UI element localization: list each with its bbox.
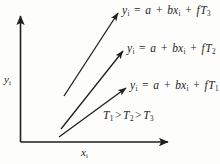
inequality-t1-subscript: 1 (110, 115, 114, 123)
equation-top-predictor: x (173, 4, 178, 16)
equation-top-dependent: y (122, 4, 127, 16)
equation-top-predictor-subscript: i (179, 10, 181, 18)
equation-bottom-plus-second: + (192, 79, 202, 91)
equation-bottom-intercept: a (153, 79, 159, 91)
equation-top-term: T (200, 4, 207, 16)
equation-bottom-term-subscript: 1 (215, 85, 219, 93)
equation-middle-plus-second: + (189, 42, 199, 54)
inequality-t2-subscript: 2 (130, 115, 134, 123)
equation-bottom-plus-first: + (162, 79, 172, 91)
equation-middle: yi = a + bxi + fT2 (127, 43, 216, 55)
equation-middle-equals: = (138, 42, 148, 54)
inequality-t3-subscript: 3 (150, 115, 154, 123)
equation-middle-plus-first: + (159, 42, 169, 54)
inequality-t3: T (143, 109, 150, 121)
regression-lines-figure: yi = a + bxi + fT3 yi = a + bxi + fT2 yi… (0, 0, 220, 164)
equation-top-intercept: a (145, 4, 151, 16)
regression-line-top (64, 13, 118, 96)
equation-top-plus-second: + (184, 4, 194, 16)
y-axis-label-subscript: i (9, 79, 11, 87)
inequality-t2: T (123, 109, 130, 121)
equation-top-term-subscript: 3 (207, 10, 211, 18)
equation-middle-term: T (205, 42, 212, 54)
inequality-greater-than-first: > (113, 109, 123, 121)
equation-top: yi = a + bxi + fT3 (122, 5, 211, 17)
equation-bottom-term: T (208, 79, 215, 91)
equation-middle-predictor: x (178, 42, 183, 54)
x-axis-label-subscript: i (86, 152, 88, 160)
inequality-greater-than-second: > (134, 109, 144, 121)
equation-bottom: yi = a + bxi + fT1 (130, 80, 219, 92)
temperature-inequality: T1>T2>T3 (103, 110, 154, 122)
equation-bottom-dependent: y (130, 79, 135, 91)
inequality-t1: T (103, 109, 110, 121)
equation-middle-intercept: a (150, 42, 156, 54)
x-axis-label: xi (81, 146, 88, 158)
equation-top-equals: = (133, 4, 143, 16)
equation-middle-predictor-subscript: i (184, 48, 186, 56)
y-axis-label: yi (4, 73, 11, 85)
equation-top-plus-first: + (154, 4, 164, 16)
equation-middle-term-subscript: 2 (212, 48, 216, 56)
equation-middle-dependent: y (127, 42, 132, 54)
equation-bottom-equals: = (141, 79, 151, 91)
equation-bottom-predictor: x (181, 79, 186, 91)
equation-top-dependent-subscript: i (128, 10, 130, 18)
equation-bottom-predictor-subscript: i (187, 85, 189, 93)
equation-middle-dependent-subscript: i (133, 48, 135, 56)
equation-bottom-dependent-subscript: i (136, 85, 138, 93)
